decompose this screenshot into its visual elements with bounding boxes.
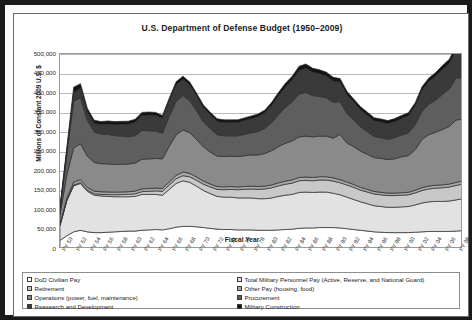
legend-item: Military Construction bbox=[237, 302, 459, 310]
legend-swatch-icon bbox=[27, 277, 32, 282]
y-axis-tick-label: 500,000 bbox=[34, 50, 56, 57]
legend-swatch-icon bbox=[27, 304, 32, 309]
y-axis-tick-label: 300,000 bbox=[34, 128, 56, 135]
y-axis-tick-label: 50,000 bbox=[37, 225, 56, 232]
legend-item: Total Military Personnel Pay (Active, Re… bbox=[237, 276, 459, 284]
legend-label: DoD Civilian Pay bbox=[35, 276, 81, 283]
plot-area bbox=[59, 53, 462, 248]
legend-item: Reasearch and Development bbox=[27, 302, 237, 310]
legend-item: Operations (power, fuel, maintenance) bbox=[27, 293, 237, 301]
y-axis-tick-label: 400,000 bbox=[34, 89, 56, 96]
legend-swatch-icon bbox=[237, 304, 242, 309]
y-axis-tick-label: 250,000 bbox=[34, 147, 56, 154]
y-axis-tick-label: 350,000 bbox=[34, 108, 56, 115]
legend-label: Reasearch and Development bbox=[35, 303, 114, 310]
legend-item: Retirement bbox=[27, 284, 237, 292]
legend-label: Other Pay (housing, food) bbox=[245, 285, 315, 292]
chart-legend: DoD Civilian PayRetirementOperations (po… bbox=[22, 272, 460, 309]
stacked-area-series bbox=[60, 54, 462, 248]
legend-swatch-icon bbox=[27, 286, 32, 291]
legend-swatch-icon bbox=[237, 277, 242, 282]
legend-label: Retirement bbox=[35, 285, 65, 292]
legend-column-2: Total Military Personnel Pay (Active, Re… bbox=[237, 275, 459, 308]
y-axis-tick-label: 150,000 bbox=[34, 186, 56, 193]
y-axis-tick-label: 0 bbox=[53, 245, 56, 252]
legend-label: Operations (power, fuel, maintenance) bbox=[35, 294, 138, 301]
y-axis-tick-label: 450,000 bbox=[34, 69, 56, 76]
legend-swatch-icon bbox=[237, 295, 242, 300]
legend-swatch-icon bbox=[237, 286, 242, 291]
legend-label: Procurement bbox=[245, 294, 280, 301]
legend-column-1: DoD Civilian PayRetirementOperations (po… bbox=[27, 275, 237, 308]
legend-item: DoD Civilian Pay bbox=[27, 276, 237, 284]
y-axis-tick-label: 100,000 bbox=[34, 206, 56, 213]
screenshot-page: U.S. Department of Defense Budget (1950–… bbox=[0, 0, 472, 320]
x-axis-title: Fiscal Year bbox=[14, 236, 470, 243]
legend-item: Procurement bbox=[237, 293, 459, 301]
legend-label: Total Military Personnel Pay (Active, Re… bbox=[245, 276, 425, 283]
plot-frame bbox=[59, 53, 462, 248]
scan-border: U.S. Department of Defense Budget (1950–… bbox=[0, 0, 472, 320]
legend-label: Military Construction bbox=[245, 303, 300, 310]
chart-container: U.S. Department of Defense Budget (1950–… bbox=[13, 13, 469, 317]
legend-swatch-icon bbox=[27, 295, 32, 300]
chart-title: U.S. Department of Defense Budget (1950–… bbox=[14, 23, 470, 33]
y-axis-tick-label: 200,000 bbox=[34, 167, 56, 174]
legend-item: Other Pay (housing, food) bbox=[237, 284, 459, 292]
y-axis-tick-labels: 500,000450,000400,000350,000300,000250,0… bbox=[14, 53, 56, 248]
